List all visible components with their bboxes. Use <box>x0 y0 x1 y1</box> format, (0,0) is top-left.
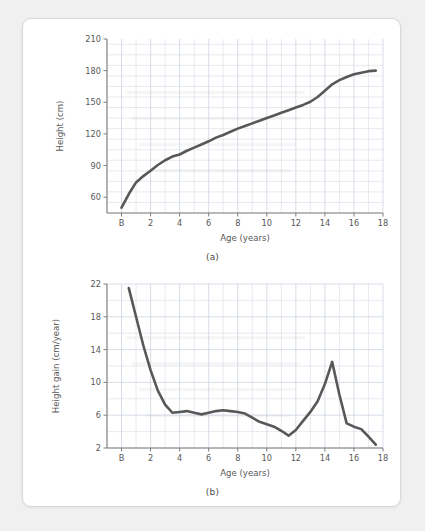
svg-text:18: 18 <box>91 312 101 322</box>
x-axis-title: Age (years) <box>220 468 270 478</box>
svg-text:180: 180 <box>85 66 101 76</box>
svg-text:18: 18 <box>378 453 388 463</box>
chart-panel-a: B246810121416186090120150180210Age (year… <box>23 25 402 273</box>
svg-text:8: 8 <box>235 218 240 228</box>
height-vs-age-chart: B246810121416186090120150180210Age (year… <box>23 25 402 251</box>
y-axis-title: Height (cm) <box>55 101 65 152</box>
svg-text:10: 10 <box>91 377 101 387</box>
svg-text:2: 2 <box>148 218 153 228</box>
svg-text:6: 6 <box>206 218 211 228</box>
svg-text:6: 6 <box>96 410 101 420</box>
svg-text:2: 2 <box>96 443 101 453</box>
panel-b-caption: (b) <box>23 487 402 497</box>
svg-text:22: 22 <box>91 279 101 289</box>
svg-text:210: 210 <box>85 34 101 44</box>
svg-text:60: 60 <box>91 192 101 202</box>
svg-text:4: 4 <box>177 218 182 228</box>
y-axis-title: Height gain (cm/year) <box>51 319 61 413</box>
x-axis-title: Age (years) <box>220 233 270 243</box>
svg-text:8: 8 <box>235 453 240 463</box>
svg-text:12: 12 <box>291 453 301 463</box>
svg-text:14: 14 <box>320 218 330 228</box>
svg-text:150: 150 <box>85 97 101 107</box>
svg-text:18: 18 <box>378 218 388 228</box>
svg-text:B: B <box>119 218 125 228</box>
svg-text:120: 120 <box>85 129 101 139</box>
svg-text:16: 16 <box>349 453 359 463</box>
chart-panel-b: B246810121416182610141822Age (years)Heig… <box>23 272 402 508</box>
panel-a-caption: (a) <box>23 252 402 262</box>
figure-card: B246810121416186090120150180210Age (year… <box>22 18 401 507</box>
svg-text:10: 10 <box>262 218 272 228</box>
svg-text:B: B <box>119 453 125 463</box>
svg-text:10: 10 <box>262 453 272 463</box>
svg-text:2: 2 <box>148 453 153 463</box>
height-gain-vs-age-chart: B246810121416182610141822Age (years)Heig… <box>23 272 402 486</box>
svg-text:12: 12 <box>291 218 301 228</box>
svg-text:14: 14 <box>91 345 101 355</box>
svg-text:14: 14 <box>320 453 330 463</box>
svg-text:6: 6 <box>206 453 211 463</box>
svg-text:90: 90 <box>91 161 101 171</box>
svg-text:4: 4 <box>177 453 182 463</box>
svg-text:16: 16 <box>349 218 359 228</box>
